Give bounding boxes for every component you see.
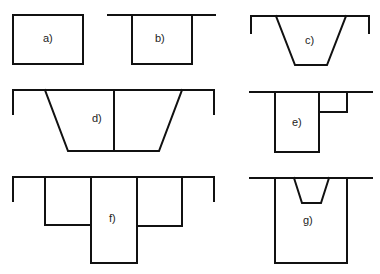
- panel-d-label: d): [92, 112, 102, 124]
- panel-e-side-rectangle: [319, 92, 347, 112]
- panel-e: e): [250, 92, 372, 152]
- panel-c: c): [251, 16, 369, 65]
- panel-c-label: c): [305, 34, 314, 46]
- panel-g: g): [250, 178, 372, 263]
- panel-f: f): [13, 177, 214, 263]
- panel-a-label: a): [43, 32, 53, 44]
- panel-e-label: e): [292, 116, 302, 128]
- panel-a: a): [13, 15, 83, 64]
- panel-f-right-rectangle: [137, 177, 182, 226]
- cross-section-diagram: a) b) c) d) e) f) g): [0, 0, 380, 274]
- panel-b-label: b): [155, 32, 165, 44]
- panel-f-label: f): [109, 212, 116, 224]
- panel-f-left-rectangle: [45, 177, 91, 225]
- panel-d: d): [13, 90, 214, 151]
- panel-g-notch-trapezoid: [294, 178, 329, 203]
- panel-f-top-line: [13, 177, 214, 201]
- panel-g-label: g): [303, 214, 313, 226]
- panel-b: b): [108, 15, 215, 64]
- panel-c-top-line: [251, 16, 369, 33]
